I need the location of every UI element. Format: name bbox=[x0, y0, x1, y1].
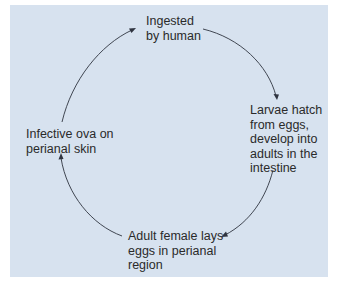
node-infective-ova: Infective ova on perianal skin bbox=[26, 127, 114, 156]
arrow-larvae-to-adult bbox=[221, 170, 273, 237]
node-adult-female-lays-eggs: Adult female lays eggs in perianal regio… bbox=[128, 229, 223, 273]
node-larvae-hatch: Larvae hatch from eggs, develop into adu… bbox=[250, 103, 322, 176]
arrow-ingested-to-larvae bbox=[203, 29, 279, 100]
node-ingested-by-human: Ingested by human bbox=[146, 14, 201, 43]
arrow-adult-to-ova bbox=[59, 153, 123, 236]
arrow-ova-to-ingested bbox=[62, 28, 136, 122]
